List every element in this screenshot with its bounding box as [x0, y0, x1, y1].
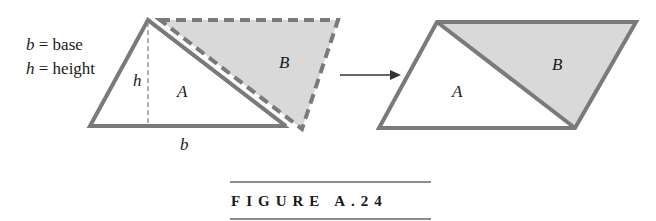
base-label: b — [180, 135, 189, 154]
height-label: h — [133, 71, 142, 90]
legend-base: b = base — [26, 35, 83, 54]
region-a-label-right: A — [451, 82, 463, 101]
arrow-head-icon — [390, 70, 401, 80]
region-b-label-left: B — [279, 53, 290, 72]
figure-canvas: b = base h = height h A B b A B FIGURE A… — [0, 0, 656, 221]
legend-height: h = height — [26, 59, 95, 78]
region-a-label-left: A — [176, 82, 188, 101]
region-b-label-right: B — [552, 55, 563, 74]
figure-caption: FIGURE A.24 — [231, 193, 388, 209]
